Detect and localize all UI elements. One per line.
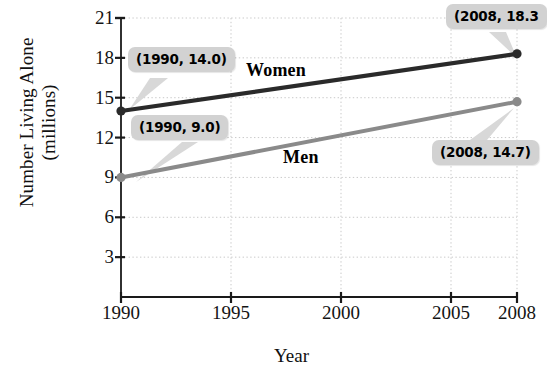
y-axis-title: Number Living Alone (millions) [16, 12, 61, 232]
x-axis-title: Year [0, 345, 543, 367]
y-axis-title-line1: Number Living Alone [16, 38, 37, 208]
x-tick-label: 2005 [432, 302, 470, 324]
callout-women-2008: (2008, 18.3 [446, 4, 547, 29]
x-tick-label: 1990 [102, 302, 140, 324]
y-axis-title-line2: (millions) [38, 12, 60, 232]
callout-men-1990: (1990, 9.0) [131, 115, 228, 140]
x-tick-label: 1995 [212, 302, 250, 324]
x-tick-label: 2000 [322, 302, 360, 324]
callout-women-1990: (1990, 14.0) [128, 47, 235, 72]
series-label-men: Men [283, 147, 319, 168]
callout-men-2008: (2008, 14.7) [432, 140, 539, 165]
x-tick-label: 2008 [498, 302, 536, 324]
series-label-women: Women [246, 60, 306, 81]
